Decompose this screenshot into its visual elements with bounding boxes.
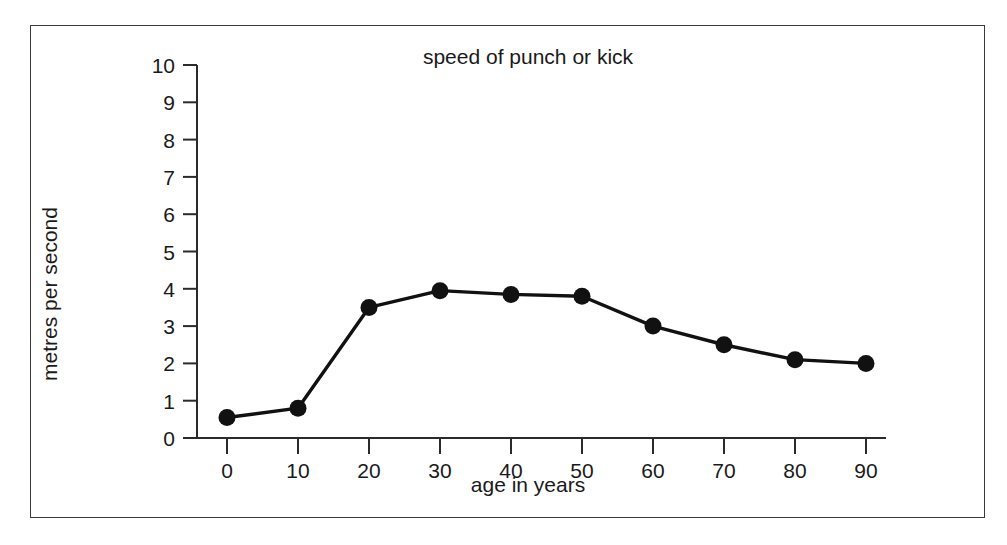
data-point-marker <box>361 299 378 316</box>
y-tick-label: 2 <box>163 352 175 375</box>
x-tick-label: 30 <box>428 459 451 482</box>
data-point-marker <box>716 336 733 353</box>
x-tick-label: 10 <box>286 459 309 482</box>
data-point-marker <box>503 286 520 303</box>
y-tick-label: 1 <box>163 390 175 413</box>
data-point-marker <box>219 409 236 426</box>
x-tick-label: 20 <box>357 459 380 482</box>
data-point-marker <box>432 282 449 299</box>
y-tick-label: 0 <box>163 427 175 450</box>
y-tick-label: 7 <box>163 166 175 189</box>
x-tick-label: 90 <box>854 459 877 482</box>
data-point-marker <box>574 288 591 305</box>
data-point-marker <box>645 318 662 335</box>
x-tick-label: 0 <box>221 459 233 482</box>
x-tick-label: 80 <box>783 459 806 482</box>
data-point-marker <box>858 355 875 372</box>
x-tick-label: 40 <box>499 459 522 482</box>
x-tick-label: 60 <box>641 459 664 482</box>
data-series-line <box>227 291 866 418</box>
x-axis-label: age in years <box>471 473 585 496</box>
y-tick-label: 9 <box>163 91 175 114</box>
y-axis-label: metres per second <box>38 207 61 381</box>
y-tick-label: 4 <box>163 278 175 301</box>
figure-border: speed of punch or kick metres per second… <box>30 25 985 518</box>
data-point-marker <box>290 400 307 417</box>
y-tick-label: 8 <box>163 129 175 152</box>
x-tick-label: 50 <box>570 459 593 482</box>
chart-title: speed of punch or kick <box>423 45 634 68</box>
y-axis-ticks: 10 9 8 7 6 5 4 3 2 1 <box>152 54 197 450</box>
data-point-marker <box>787 351 804 368</box>
y-tick-label: 5 <box>163 241 175 264</box>
y-tick-label: 10 <box>152 54 175 77</box>
x-tick-label: 70 <box>712 459 735 482</box>
y-tick-label: 3 <box>163 315 175 338</box>
line-chart: speed of punch or kick metres per second… <box>31 26 986 519</box>
y-tick-label: 6 <box>163 203 175 226</box>
chart-area: speed of punch or kick metres per second… <box>31 26 984 517</box>
